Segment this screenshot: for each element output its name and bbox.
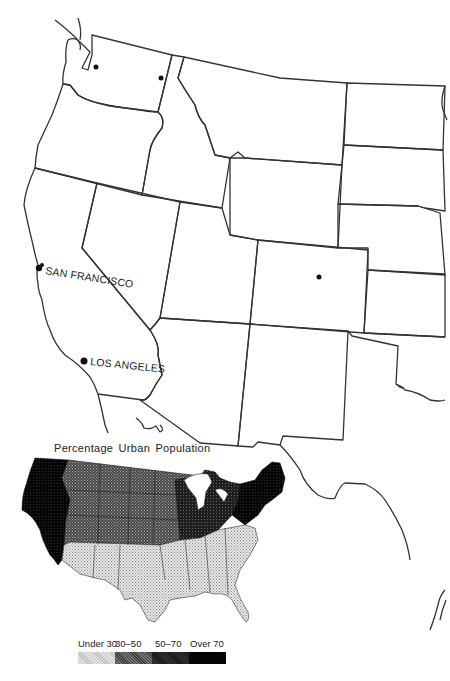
inset-region-northeast [232,462,285,525]
city-markers: SAN FRANCISCO LOS ANGELES [36,65,322,375]
legend-swatch-under-30 [78,652,115,664]
legend-swatch-over-70 [189,652,226,664]
map-svg: SAN FRANCISCO LOS ANGELES [0,0,450,681]
state-colorado [250,240,368,333]
legend-label-50-70: 50–70 [155,638,181,649]
state-oregon [35,84,163,195]
state-wyoming [230,158,342,248]
legend-swatch-30-50 [115,652,152,664]
city-dot-denver [317,275,322,280]
state-idaho [142,55,230,208]
legend-label-30-50: 30–50 [115,638,141,649]
state-nebraska [338,204,445,275]
state-kansas [364,270,445,337]
state-south-dakota [338,145,445,211]
inset-title: Percentage Urban Population [54,442,210,454]
legend-label-over-70: Over 70 [190,638,224,649]
city-dot-oakland [40,263,44,267]
state-montana [178,57,347,165]
inset-region-pacific [22,458,70,565]
city-label-los-angeles: LOS ANGELES [90,355,166,375]
state-washington [63,35,172,112]
city-label-san-francisco: SAN FRANCISCO [45,264,135,290]
state-oklahoma [348,331,445,401]
state-north-dakota [344,83,445,150]
western-us-map: SAN FRANCISCO LOS ANGELES [0,0,450,681]
legend-swatch-50-70 [152,652,189,664]
state-utah [160,202,258,324]
state-new-mexico [238,324,348,447]
city-dot-los-angeles [81,358,88,365]
legend-label-under-30: Under 30 [78,638,117,649]
city-dot-seattle [94,65,99,70]
inset-choropleth-map [22,458,285,622]
legend-bar [78,652,226,664]
state-texas [280,445,410,560]
city-dot-spokane [159,76,164,81]
